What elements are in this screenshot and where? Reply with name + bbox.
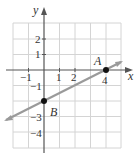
y-axis-arrow-icon: [41, 7, 47, 15]
point-b: [41, 98, 47, 104]
line-arrow-left-icon: [4, 115, 13, 121]
x-tick-1: 1: [56, 71, 62, 83]
line-arrow-right-icon: [115, 61, 123, 67]
point-b-label: B: [50, 105, 58, 119]
x-tick-2: 2: [71, 71, 77, 83]
y-tick-1: 1: [35, 48, 41, 60]
coordinate-plane: y x A B −1 1 2 4 2 1 −1 −3 −4: [0, 0, 140, 153]
point-a-label: A: [93, 54, 102, 68]
y-tick-neg1: −1: [30, 80, 42, 92]
y-tick-neg3: −3: [30, 111, 42, 123]
y-tick-neg4: −4: [30, 127, 42, 139]
y-axis-label: y: [32, 3, 39, 17]
point-a: [103, 67, 109, 73]
x-tick-4: 4: [102, 74, 108, 86]
y-tick-2: 2: [35, 33, 41, 45]
x-axis-label: x: [127, 69, 134, 83]
